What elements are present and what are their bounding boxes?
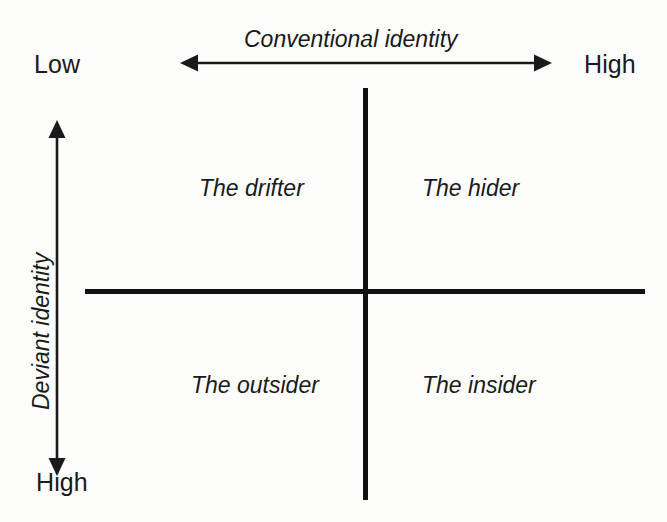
x-axis-low-label: Low <box>34 52 80 77</box>
quadrant-label-top-right: The hider <box>422 177 519 200</box>
double-headed-horizontal-arrow-icon <box>178 50 554 80</box>
x-axis-title: Conventional identity <box>244 28 458 51</box>
x-axis-high-label: High <box>584 52 636 77</box>
cross-vertical-line <box>363 88 368 500</box>
cross-horizontal-line <box>85 289 645 294</box>
quadrant-diagram: Low High Conventional identity High Devi… <box>0 0 667 522</box>
quadrant-label-bottom-right: The insider <box>422 374 536 397</box>
double-headed-vertical-arrow-icon <box>44 118 70 482</box>
quadrant-label-bottom-left: The outsider <box>191 374 319 397</box>
quadrant-label-top-left: The drifter <box>199 177 304 200</box>
